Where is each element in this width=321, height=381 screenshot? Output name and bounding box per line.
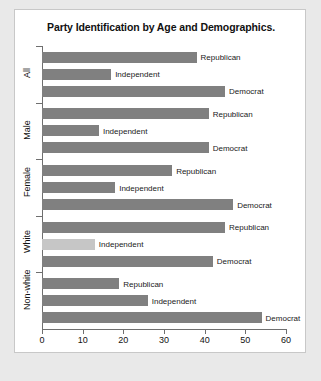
x-tick	[164, 330, 165, 334]
bar-label-independent: Independent	[99, 126, 148, 135]
x-tick-label: 10	[71, 335, 95, 345]
bar-label-independent: Independent	[95, 240, 144, 249]
group-label-text: Male	[22, 120, 32, 140]
group-separator	[36, 46, 42, 47]
bar-row: Independent	[42, 239, 286, 250]
bar-republican	[42, 52, 197, 63]
bar-row: Democrat	[42, 86, 286, 97]
bar-row: Independent	[42, 69, 286, 80]
bar-democrat	[42, 199, 233, 210]
x-tick-label: 0	[30, 335, 54, 345]
bar-row: Independent	[42, 125, 286, 136]
bar-independent	[42, 125, 99, 136]
bar-label-independent: Independent	[111, 70, 160, 79]
group-label-white: White	[17, 238, 37, 248]
bar-row: Republican	[42, 165, 286, 176]
group-separator	[36, 272, 42, 273]
bar-row: Republican	[42, 278, 286, 289]
bar-row: Democrat	[42, 199, 286, 210]
x-tick	[123, 330, 124, 334]
x-tick-label: 20	[111, 335, 135, 345]
bar-row: Democrat	[42, 312, 286, 323]
bar-democrat	[42, 86, 225, 97]
x-tick-label: 40	[193, 335, 217, 345]
group-label-text: Female	[22, 177, 32, 197]
bar-democrat	[42, 256, 213, 267]
group-separator	[36, 103, 42, 104]
bar-republican	[42, 108, 209, 119]
bar-republican	[42, 278, 119, 289]
bar-label-republican: Republican	[197, 53, 241, 62]
bar-republican	[42, 222, 225, 233]
group-label-non-white: Non-white	[17, 295, 37, 305]
plot-area: RepublicanIndependentDemocratRepublicanI…	[42, 46, 286, 329]
bar-label-independent: Independent	[148, 296, 197, 305]
chart-panel: Party Identification by Age and Demograp…	[14, 9, 306, 353]
bar-label-democrat: Democrat	[225, 87, 264, 96]
bar-label-republican: Republican	[119, 279, 163, 288]
bar-label-republican: Republican	[225, 223, 269, 232]
x-tick	[286, 330, 287, 334]
x-tick-label: 30	[152, 335, 176, 345]
bar-label-democrat: Democrat	[213, 257, 252, 266]
bar-democrat	[42, 312, 262, 323]
bar-row: Democrat	[42, 256, 286, 267]
bar-democrat	[42, 142, 209, 153]
x-tick	[205, 330, 206, 334]
x-tick-label: 50	[233, 335, 257, 345]
bar-label-independent: Independent	[115, 183, 164, 192]
group-separator	[36, 216, 42, 217]
bar-row: Republican	[42, 108, 286, 119]
bar-row: Republican	[42, 52, 286, 63]
bar-label-democrat: Democrat	[209, 143, 248, 152]
group-label-text: All	[22, 63, 32, 83]
bar-row: Independent	[42, 182, 286, 193]
bar-independent	[42, 295, 148, 306]
group-label-all: All	[17, 68, 37, 78]
bar-independent	[42, 69, 111, 80]
bar-label-republican: Republican	[172, 166, 216, 175]
bar-label-republican: Republican	[209, 109, 253, 118]
bar-row: Independent	[42, 295, 286, 306]
x-tick-label: 60	[274, 335, 298, 345]
group-label-male: Male	[17, 125, 37, 135]
x-tick	[245, 330, 246, 334]
group-label-text: Non-white	[22, 290, 32, 310]
bar-independent	[42, 239, 95, 250]
bar-label-democrat: Democrat	[262, 313, 301, 322]
bar-independent	[42, 182, 115, 193]
bar-row: Republican	[42, 222, 286, 233]
chart-page: Party Identification by Age and Demograp…	[0, 0, 321, 381]
chart-title: Party Identification by Age and Demograp…	[15, 21, 307, 33]
x-tick	[83, 330, 84, 334]
x-tick	[42, 330, 43, 334]
bar-label-democrat: Democrat	[233, 200, 272, 209]
group-label-text: White	[22, 233, 32, 253]
bar-row: Democrat	[42, 142, 286, 153]
group-label-female: Female	[17, 182, 37, 192]
group-separator	[36, 159, 42, 160]
bar-republican	[42, 165, 172, 176]
